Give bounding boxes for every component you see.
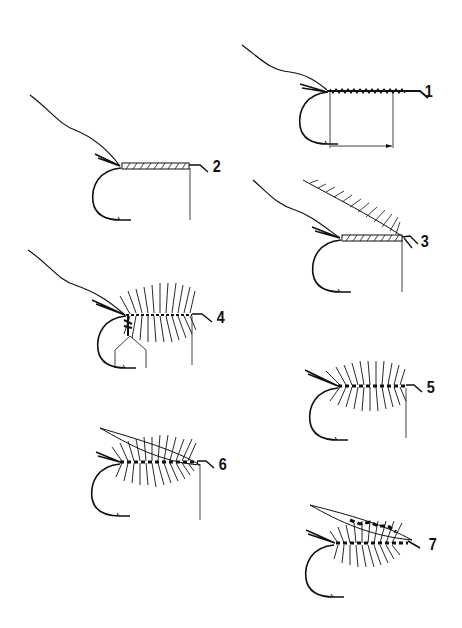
step-label-6: 6 [219, 455, 227, 475]
step-label-4: 4 [217, 308, 225, 328]
fly-tying-diagram [0, 0, 462, 628]
step-7-drawing [306, 505, 420, 597]
step-1-drawing [242, 45, 428, 148]
step-5-drawing [305, 361, 422, 440]
step-label-1: 1 [425, 82, 433, 102]
step-4-drawing [28, 250, 212, 368]
step-6-drawing [92, 428, 214, 520]
step-label-5: 5 [427, 378, 435, 398]
step-label-2: 2 [213, 157, 221, 177]
step-3-drawing [253, 180, 418, 292]
step-2-drawing [30, 95, 208, 220]
step-label-7: 7 [429, 535, 437, 555]
step-label-3: 3 [421, 232, 429, 252]
